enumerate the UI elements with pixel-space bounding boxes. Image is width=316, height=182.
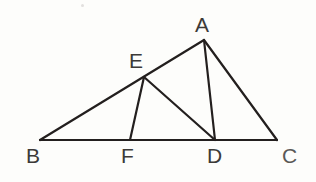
segment-EF	[130, 77, 144, 140]
segment-BA	[40, 40, 204, 140]
segment-layer	[40, 40, 277, 140]
diagram-canvas	[0, 0, 316, 182]
vertex-label-e: E	[129, 50, 143, 71]
segment-AC	[204, 40, 277, 140]
vertex-label-f: F	[121, 145, 134, 166]
vertex-label-c: C	[282, 145, 297, 166]
vertex-label-d: D	[207, 145, 222, 166]
segment-ED	[144, 77, 215, 140]
geometry-figure: A E B F D C	[0, 0, 316, 182]
scan-speck	[81, 4, 84, 7]
segment-AD	[204, 40, 215, 140]
vertex-label-b: B	[26, 145, 40, 166]
vertex-label-a: A	[195, 14, 209, 35]
